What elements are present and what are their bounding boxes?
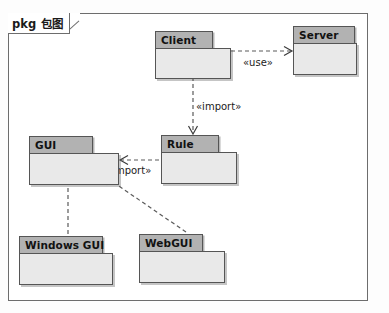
package-tab: Server bbox=[293, 26, 355, 44]
package-tab: Windows GUI bbox=[19, 236, 103, 254]
package-body bbox=[19, 253, 113, 285]
package-diagram-canvas: pkg 包图 «use» «import» «import» bbox=[0, 0, 389, 313]
package-name: WebGUI bbox=[140, 237, 193, 249]
package-body bbox=[155, 48, 231, 79]
package-name: Rule bbox=[162, 138, 194, 150]
package-tab: WebGUI bbox=[139, 234, 203, 252]
package-body bbox=[161, 152, 237, 184]
package-name: Windows GUI bbox=[20, 239, 104, 251]
frame-tab-notch-icon bbox=[69, 13, 81, 35]
package-body bbox=[29, 153, 119, 185]
package-tab: Rule bbox=[161, 135, 219, 153]
package-name: GUI bbox=[30, 139, 56, 151]
package-body bbox=[139, 251, 225, 283]
edge-label-import-client-rule: «import» bbox=[196, 101, 241, 112]
frame-label: pkg 包图 bbox=[12, 15, 63, 31]
package-tab: GUI bbox=[29, 136, 93, 154]
package-body bbox=[293, 43, 357, 75]
package-tab: Client bbox=[155, 31, 213, 49]
package-name: Server bbox=[294, 29, 339, 41]
package-name: Client bbox=[156, 34, 196, 46]
edge-label-use: «use» bbox=[243, 57, 273, 68]
